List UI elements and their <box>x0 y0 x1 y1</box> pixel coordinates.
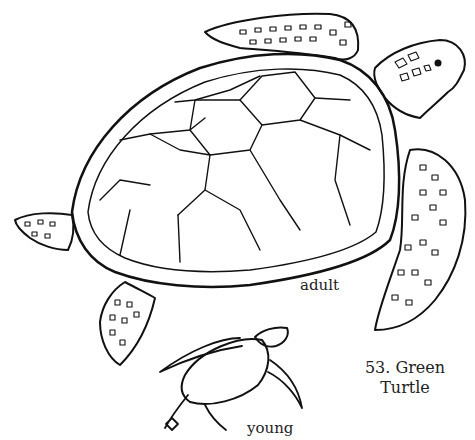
young-rear-flipper-left <box>165 395 188 430</box>
adult-eye <box>435 60 442 67</box>
head-scales <box>395 52 431 81</box>
figure-caption: 53. Green Turtle <box>355 358 455 398</box>
adult-rear-right-flipper <box>100 282 155 365</box>
adult-rear-left-flipper <box>15 213 73 250</box>
label-adult: adult <box>300 276 339 294</box>
adult-front-left-flipper <box>205 14 358 60</box>
caption-line-1: 53. Green <box>355 358 455 378</box>
illustration-canvas: adult young 53. Green Turtle <box>0 0 475 440</box>
young-turtle <box>160 327 302 430</box>
young-front-flipper-right <box>268 360 302 408</box>
caption-line-2: Turtle <box>355 378 455 398</box>
label-young: young <box>247 419 293 437</box>
adult-turtle <box>15 14 465 365</box>
young-rear-flipper-right <box>205 405 226 430</box>
young-head <box>255 327 288 346</box>
rear-flipper-scales <box>25 220 139 345</box>
flipper-scales <box>240 22 351 45</box>
